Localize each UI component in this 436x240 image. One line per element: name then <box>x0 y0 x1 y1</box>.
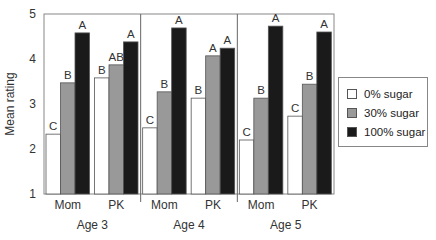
x-category-label: PK <box>302 198 318 212</box>
bar <box>239 140 254 194</box>
bar <box>124 42 139 194</box>
significance-letter: B <box>257 84 265 96</box>
significance-letter: B <box>64 69 72 81</box>
legend-item-30pct: 30% sugar <box>347 106 419 120</box>
significance-letter: A <box>320 18 328 30</box>
bar <box>61 83 76 194</box>
significance-letter: B <box>161 78 169 90</box>
significance-letter: B <box>98 64 106 76</box>
legend-item-100pct: 100% sugar <box>347 125 425 139</box>
legend-label: 0% sugar <box>364 88 413 100</box>
bar <box>172 28 187 194</box>
bar <box>109 65 124 194</box>
legend: 0% sugar 30% sugar 100% sugar <box>338 77 428 147</box>
y-tick-label: 3 <box>29 97 36 111</box>
group-label: Age 3 <box>77 218 109 232</box>
bar <box>302 84 317 194</box>
legend-label: 30% sugar <box>364 107 419 119</box>
bar <box>157 92 172 194</box>
significance-letter: C <box>242 126 250 138</box>
bar <box>268 26 283 194</box>
legend-swatch-white <box>347 89 357 99</box>
y-tick-label: 1 <box>29 187 36 201</box>
legend-swatch-gray <box>347 108 357 118</box>
legend-swatch-black <box>347 127 357 137</box>
significance-letter: C <box>49 120 57 132</box>
x-category-label: Mom <box>151 198 178 212</box>
x-category-label: PK <box>205 198 221 212</box>
x-category-label: PK <box>108 198 124 212</box>
bar <box>46 134 61 194</box>
y-tick-label: 4 <box>29 52 36 66</box>
bar <box>206 56 221 194</box>
significance-letter: A <box>209 42 217 54</box>
significance-letter: AB <box>109 51 125 63</box>
legend-label: 100% sugar <box>364 126 425 138</box>
x-category-label: Mom <box>248 198 275 212</box>
bar <box>288 116 303 194</box>
significance-letter: A <box>175 14 183 26</box>
significance-letter: A <box>224 34 232 46</box>
y-tick-label: 2 <box>29 142 36 156</box>
bar <box>75 33 90 194</box>
group-label: Age 4 <box>173 218 205 232</box>
significance-letter: C <box>291 102 299 114</box>
significance-letter: A <box>272 12 280 24</box>
bar <box>220 48 235 194</box>
bar <box>143 128 158 194</box>
significance-letter: A <box>78 19 86 31</box>
bar <box>95 78 110 194</box>
bar <box>317 32 332 194</box>
group-label: Age 5 <box>270 218 302 232</box>
significance-letter: C <box>146 114 154 126</box>
bar <box>191 98 206 194</box>
y-tick-label: 5 <box>29 7 36 21</box>
significance-letter: A <box>127 28 135 40</box>
significance-letter: B <box>195 84 203 96</box>
y-axis-label: Mean rating <box>3 72 17 135</box>
x-category-label: Mom <box>54 198 81 212</box>
bar <box>254 98 268 194</box>
legend-item-0pct: 0% sugar <box>347 87 413 101</box>
significance-letter: B <box>306 70 314 82</box>
